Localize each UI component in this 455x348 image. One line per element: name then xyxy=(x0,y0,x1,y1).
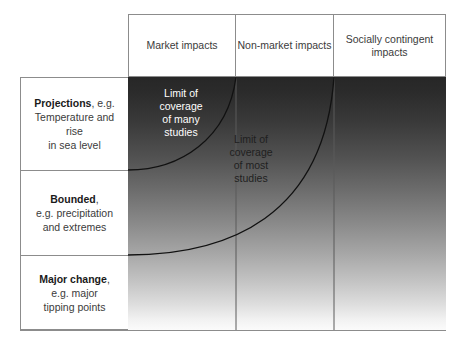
coverage-matrix-figure: Market impacts Non-market impacts Social… xyxy=(0,0,455,348)
impact-gradient-panel: Limit of coverage of many studies Limit … xyxy=(128,77,446,330)
row-label-detail: e.g. precipitation xyxy=(36,206,113,220)
annotation-line: Limit of xyxy=(208,133,294,146)
column-header-non-market-impacts: Non-market impacts xyxy=(236,15,334,76)
column-header-socially-contingent-impacts: Socially contingent impacts xyxy=(334,15,445,76)
row-label-title-strong: Bounded xyxy=(50,193,96,205)
column-header-line: impacts xyxy=(295,39,331,51)
row-label-detail: and extremes xyxy=(43,220,107,234)
annotation-line: coverage xyxy=(138,100,224,113)
row-label-title: Bounded, xyxy=(50,192,98,206)
column-header-market-impacts: Market impacts xyxy=(129,15,236,76)
annotation-line: coverage xyxy=(208,146,294,159)
column-header-line: contingent xyxy=(385,33,433,45)
row-label-title-strong: Major change xyxy=(39,273,107,285)
row-label-title-strong: Projections xyxy=(34,97,91,109)
annotation-line: of most xyxy=(208,159,294,172)
row-label-title-suffix: , xyxy=(96,193,99,205)
row-label-bounded: Bounded, e.g. precipitation and extremes xyxy=(21,171,128,256)
column-header-band: Market impacts Non-market impacts Social… xyxy=(128,14,446,77)
annotation-line: of many xyxy=(138,113,224,126)
row-label-column: Projections, e.g. Temperature and rise i… xyxy=(20,77,128,330)
column-header-line: Socially xyxy=(346,33,382,45)
annotation-line: Limit of xyxy=(138,87,224,100)
annotation-line: studies xyxy=(208,172,294,185)
annotation-limit-most-studies: Limit of coverage of most studies xyxy=(208,133,294,185)
row-label-projections: Projections, e.g. Temperature and rise i… xyxy=(21,78,128,171)
annotation-limit-many-studies: Limit of coverage of many studies xyxy=(138,87,224,139)
row-label-major-change: Major change, e.g. major tipping points xyxy=(21,256,128,329)
column-header-line: Market xyxy=(146,39,178,51)
column-header-line: impacts xyxy=(181,39,217,51)
column-header-line: impacts xyxy=(371,46,407,58)
row-label-detail: e.g. major xyxy=(51,286,98,300)
row-label-title-suffix: , xyxy=(107,273,110,285)
row-label-title-suffix: , e.g. xyxy=(91,97,114,109)
row-label-title: Major change, xyxy=(39,272,110,286)
figure-bottom-rule xyxy=(20,330,446,331)
column-header-line: Non-market xyxy=(238,39,293,51)
row-label-title: Projections, e.g. xyxy=(34,96,115,110)
row-label-detail: in sea level xyxy=(48,138,101,152)
row-label-detail: tipping points xyxy=(44,300,106,314)
row-label-detail: Temperature and rise xyxy=(25,110,124,138)
